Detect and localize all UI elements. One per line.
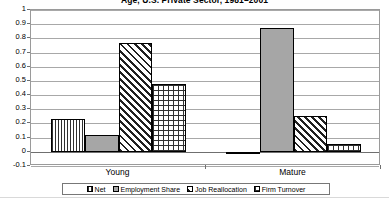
gridline xyxy=(31,67,379,68)
y-tick-label: 0.7 xyxy=(0,47,26,56)
plot-area xyxy=(30,9,380,165)
gridline xyxy=(31,53,379,54)
y-tick-label: 0.6 xyxy=(0,61,26,70)
bar xyxy=(294,116,328,151)
legend-item[interactable]: Employment Share xyxy=(113,186,181,193)
legend-item[interactable]: Job Reallocation xyxy=(187,186,247,193)
gridline xyxy=(31,10,379,11)
legend-swatch-icon xyxy=(254,186,260,192)
gridline xyxy=(31,81,379,82)
y-tick-label: 1 xyxy=(0,4,26,13)
bar xyxy=(51,119,85,152)
x-tick-mark xyxy=(380,165,381,169)
legend-item[interactable]: Net xyxy=(87,186,106,193)
y-tick-label: 0.1 xyxy=(0,132,26,141)
legend-swatch-icon xyxy=(87,186,93,192)
legend-label: Employment Share xyxy=(121,186,181,193)
bar xyxy=(260,28,294,152)
legend-item[interactable]: Firm Turnover xyxy=(254,186,306,193)
y-tick-label: 0.9 xyxy=(0,18,26,27)
y-tick-label: 0.2 xyxy=(0,117,26,126)
legend-label: Job Reallocation xyxy=(195,186,247,193)
bar xyxy=(119,43,153,151)
legend-swatch-icon xyxy=(113,186,119,192)
legend-label: Firm Turnover xyxy=(262,186,306,193)
gridline xyxy=(31,109,379,110)
y-tick-label: 0.5 xyxy=(0,75,26,84)
y-tick-mark xyxy=(27,165,30,166)
chart-legend: NetEmployment ShareJob ReallocationFirm … xyxy=(62,183,330,195)
bar xyxy=(226,152,260,154)
y-tick-label: 0.8 xyxy=(0,32,26,41)
zero-gridline xyxy=(31,152,379,153)
chart-title: Age, U.S. Private Sector, 1981–2001 xyxy=(0,0,389,5)
x-category-label: Young xyxy=(30,167,205,177)
bottom-divider xyxy=(0,197,389,198)
bar-chart: Age, U.S. Private Sector, 1981–2001 10.9… xyxy=(0,0,389,198)
x-category-label: Mature xyxy=(205,167,380,177)
legend-swatch-icon xyxy=(187,186,193,192)
bar xyxy=(85,135,119,152)
y-tick-label: 0 xyxy=(0,146,26,155)
y-tick-label: 0.3 xyxy=(0,103,26,112)
gridline xyxy=(31,24,379,25)
gridline xyxy=(31,38,379,39)
bar xyxy=(327,144,361,152)
y-tick-label: -0.1 xyxy=(0,160,26,169)
y-tick-label: 0.4 xyxy=(0,89,26,98)
legend-label: Net xyxy=(95,186,106,193)
gridline xyxy=(31,95,379,96)
bar xyxy=(152,84,186,152)
